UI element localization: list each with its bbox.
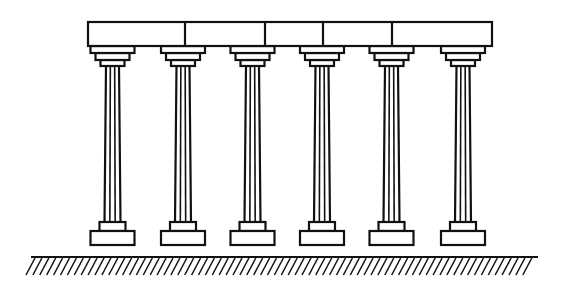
- ground-hatching: [26, 258, 532, 275]
- shaft-flute-line: [115, 66, 116, 222]
- base-torus: [309, 222, 335, 231]
- column-4: [300, 46, 344, 245]
- base-plinth: [370, 231, 414, 245]
- shaft-flute-line: [250, 66, 251, 222]
- columns-group: [91, 46, 486, 245]
- shaft-flute-line: [319, 66, 320, 222]
- shaft-flute-line: [389, 66, 390, 222]
- column-shaft: [384, 66, 400, 222]
- colonnade-figure: Colonnade elevation line drawing Black-a…: [0, 0, 568, 283]
- base-torus: [240, 222, 266, 231]
- shaft-flute-line: [110, 66, 111, 222]
- base-torus: [100, 222, 126, 231]
- column-2: [161, 46, 205, 245]
- ground-group: [26, 257, 538, 275]
- column-1: [91, 46, 135, 245]
- column-5: [370, 46, 414, 245]
- entablature-group: [88, 22, 492, 46]
- shaft-flute-line: [324, 66, 325, 222]
- base-plinth: [441, 231, 485, 245]
- base-torus: [379, 222, 405, 231]
- base-torus: [450, 222, 476, 231]
- shaft-flute-line: [180, 66, 181, 222]
- base-plinth: [161, 231, 205, 245]
- base-plinth: [91, 231, 135, 245]
- column-shaft: [314, 66, 330, 222]
- column-6: [441, 46, 485, 245]
- shaft-flute-line: [394, 66, 395, 222]
- column-shaft: [245, 66, 261, 222]
- base-torus: [170, 222, 196, 231]
- shaft-flute-line: [460, 66, 461, 222]
- entablature-beam: [88, 22, 492, 46]
- base-plinth: [300, 231, 344, 245]
- column-shaft: [105, 66, 121, 222]
- column-shaft: [455, 66, 471, 222]
- base-plinth: [231, 231, 275, 245]
- shaft-flute-line: [255, 66, 256, 222]
- column-3: [231, 46, 275, 245]
- shaft-flute-line: [185, 66, 186, 222]
- column-shaft: [175, 66, 191, 222]
- shaft-flute-line: [465, 66, 466, 222]
- colonnade-drawing-svg: Colonnade elevation line drawing Black-a…: [0, 0, 568, 283]
